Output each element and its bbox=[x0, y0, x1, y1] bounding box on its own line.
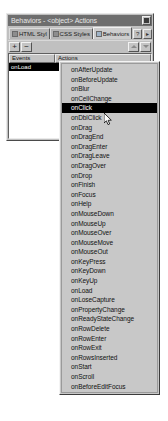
menu-item-onDragOver[interactable]: onDragOver bbox=[62, 161, 157, 171]
column-header-events[interactable]: Events bbox=[9, 54, 55, 63]
move-up-button[interactable] bbox=[128, 42, 139, 52]
tab-css-styles-label: CSS Styles bbox=[60, 30, 90, 38]
menu-item-onBlur[interactable]: onBlur bbox=[62, 84, 157, 94]
tab-css-styles[interactable]: CSS Styles bbox=[50, 28, 93, 39]
menu-item-onMouseMove[interactable]: onMouseMove bbox=[62, 238, 157, 248]
behaviors-icon bbox=[96, 31, 102, 37]
menu-item-onRowEnter[interactable]: onRowEnter bbox=[62, 334, 157, 344]
css-styles-icon bbox=[53, 31, 59, 37]
move-down-button[interactable] bbox=[140, 42, 151, 52]
tab-strip: HTML Styl CSS Styles Behaviors ? ▸ bbox=[8, 27, 152, 39]
triangle-down-icon bbox=[143, 45, 149, 48]
menu-item-onCellChange[interactable]: onCellChange bbox=[62, 94, 157, 104]
menu-item-onBeforeEditFocus[interactable]: onBeforeEditFocus bbox=[62, 382, 157, 392]
menu-item-onReadyStateChange[interactable]: onReadyStateChange bbox=[62, 314, 157, 324]
tab-behaviors-label: Behaviors bbox=[103, 30, 130, 38]
menu-item-onKeyUp[interactable]: onKeyUp bbox=[62, 276, 157, 286]
menu-item-onLoad[interactable]: onLoad bbox=[62, 286, 157, 296]
close-button[interactable] bbox=[142, 16, 151, 25]
menu-item-onMouseUp[interactable]: onMouseUp bbox=[62, 219, 157, 229]
menu-item-onAfterUpdate[interactable]: onAfterUpdate bbox=[62, 65, 157, 75]
menu-item-onBeforeUpdate[interactable]: onBeforeUpdate bbox=[62, 75, 157, 85]
tab-behaviors[interactable]: Behaviors bbox=[93, 27, 132, 39]
menu-item-onRowDelete[interactable]: onRowDelete bbox=[62, 324, 157, 334]
tab-html-styles[interactable]: HTML Styl bbox=[9, 28, 50, 39]
menu-item-onScroll[interactable]: onScroll bbox=[62, 372, 157, 382]
tab-html-styles-label: HTML Styl bbox=[19, 30, 47, 38]
menu-item-onKeyDown[interactable]: onKeyDown bbox=[62, 266, 157, 276]
menu-item-onHelp[interactable]: onHelp bbox=[62, 199, 157, 209]
menu-item-onMouseOver[interactable]: onMouseOver bbox=[62, 228, 157, 238]
menu-item-onLoseCapture[interactable]: onLoseCapture bbox=[62, 295, 157, 305]
events-dropdown-list: onAfterUpdateonBeforeUpdateonBluronCellC… bbox=[61, 63, 158, 393]
menu-item-onDrop[interactable]: onDrop bbox=[62, 171, 157, 181]
events-dropdown-menu[interactable]: onAfterUpdateonBeforeUpdateonBluronCellC… bbox=[59, 61, 160, 395]
panel-titlebar[interactable]: Behaviors - <object> Actions bbox=[8, 15, 152, 26]
menu-item-onFinish[interactable]: onFinish bbox=[62, 180, 157, 190]
triangle-up-icon bbox=[131, 45, 137, 48]
menu-item-onMouseDown[interactable]: onMouseDown bbox=[62, 209, 157, 219]
menu-item-onStart[interactable]: onStart bbox=[62, 362, 157, 372]
close-icon bbox=[144, 18, 149, 23]
menu-item-onDragEnd[interactable]: onDragEnd bbox=[62, 132, 157, 142]
remove-behavior-button[interactable]: − bbox=[21, 42, 32, 52]
html-styles-icon bbox=[12, 31, 18, 37]
menu-item-onRowExit[interactable]: onRowExit bbox=[62, 343, 157, 353]
menu-item-onDblClick[interactable]: onDblClick bbox=[62, 113, 157, 123]
menu-item-onMouseOut[interactable]: onMouseOut bbox=[62, 247, 157, 257]
help-button[interactable]: ? bbox=[133, 29, 142, 39]
menu-item-onDragEnter[interactable]: onDragEnter bbox=[62, 142, 157, 152]
menu-item-onKeyPress[interactable]: onKeyPress bbox=[62, 257, 157, 267]
menu-item-onDragLeave[interactable]: onDragLeave bbox=[62, 151, 157, 161]
add-behavior-button[interactable]: + bbox=[9, 42, 20, 52]
behaviors-toolbar: + − bbox=[8, 40, 152, 52]
menu-item-onPropertyChange[interactable]: onPropertyChange bbox=[62, 305, 157, 315]
menu-item-onRowsInserted[interactable]: onRowsInserted bbox=[62, 353, 157, 363]
menu-item-onFocus[interactable]: onFocus bbox=[62, 190, 157, 200]
menu-item-onClick[interactable]: onClick bbox=[62, 103, 157, 113]
menu-item-onDrag[interactable]: onDrag bbox=[62, 123, 157, 133]
panel-options-button[interactable]: ▸ bbox=[143, 29, 152, 39]
panel-title: Behaviors - <object> Actions bbox=[11, 15, 142, 26]
